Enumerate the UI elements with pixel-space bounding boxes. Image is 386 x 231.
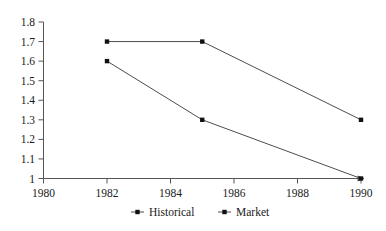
x-tick-label: 1990 — [350, 187, 373, 199]
data-point-marker — [200, 118, 204, 122]
legend-label: Market — [236, 206, 270, 218]
data-point-marker — [359, 176, 363, 180]
square-marker-icon — [222, 210, 226, 214]
x-tick-label: 1982 — [96, 187, 119, 199]
x-tick-label: 1980 — [32, 187, 55, 199]
y-tick-label: 1.5 — [21, 75, 36, 87]
y-tick-label: 1.7 — [21, 36, 36, 48]
data-point-marker — [105, 59, 109, 63]
y-tick-label: 1.2 — [21, 133, 36, 145]
y-tick-label: 1.6 — [21, 55, 36, 67]
chart-background — [0, 0, 386, 231]
y-axis: 11.11.21.31.41.51.61.71.8 — [21, 16, 44, 185]
legend-label: Historical — [149, 206, 194, 218]
x-tick-label: 1986 — [223, 187, 246, 199]
x-tick-label: 1984 — [159, 187, 182, 199]
x-tick-label: 1988 — [286, 187, 309, 199]
y-tick-label: 1.4 — [21, 94, 36, 106]
y-tick-label: 1.3 — [21, 114, 36, 126]
square-marker-icon — [135, 210, 139, 214]
y-tick-label: 1 — [29, 173, 35, 185]
y-tick-label: 1.8 — [21, 16, 36, 28]
data-point-marker — [105, 39, 109, 43]
line-chart: 11.11.21.31.41.51.61.71.8 19801982198419… — [0, 0, 386, 231]
y-tick-group: 11.11.21.31.41.51.61.71.8 — [21, 16, 44, 185]
data-point-marker — [200, 39, 204, 43]
y-tick-label: 1.1 — [21, 153, 36, 165]
data-point-marker — [359, 118, 363, 122]
chart-canvas: 11.11.21.31.41.51.61.71.8 19801982198419… — [0, 0, 386, 231]
